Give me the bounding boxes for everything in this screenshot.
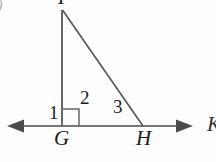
right-arrowhead (176, 120, 193, 133)
vertex-label-apex: F (58, 0, 71, 8)
right-angle-marker-icon (62, 109, 79, 126)
angle-label-3: 3 (113, 97, 123, 116)
item-number-marker: ) (0, 0, 3, 13)
geometry-figure: ) F 1 2 3 G H K (0, 0, 216, 162)
vertex-label-right-partial: K (207, 114, 216, 135)
geometry-drawing (0, 0, 216, 162)
vertex-label-h: H (136, 128, 151, 149)
angle-label-2: 2 (80, 88, 90, 107)
angle-label-1: 1 (49, 103, 59, 122)
vertex-label-g: G (54, 128, 69, 149)
left-arrowhead (7, 120, 24, 133)
